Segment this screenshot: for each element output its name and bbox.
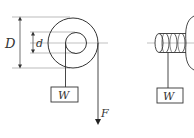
pulley-diagram: D d W F W (0, 0, 194, 138)
left-figure-wheel-and-axle: D d W F (4, 17, 109, 125)
right-figure-side-view: W (147, 16, 194, 103)
force-label: F (100, 107, 109, 120)
outer-diameter-label: D (4, 36, 16, 51)
side-view-weight-label: W (163, 90, 176, 103)
inner-diameter-label: d (36, 37, 43, 50)
weight-label: W (58, 89, 71, 102)
